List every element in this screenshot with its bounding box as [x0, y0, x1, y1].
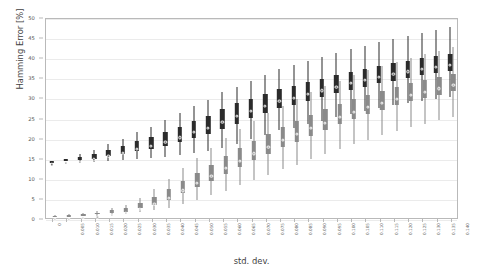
x-tick-label: 0.020 — [123, 223, 128, 235]
box-iqr — [394, 87, 398, 105]
box-iqr — [252, 141, 256, 160]
y-axis-ticks: 05101520253035404550 — [0, 18, 41, 219]
boxplot — [122, 17, 130, 218]
x-tick-mark — [195, 219, 196, 222]
x-tick-label: 0.095 — [337, 223, 342, 235]
box-iqr — [195, 173, 199, 187]
boxplot — [421, 17, 429, 218]
x-tick-mark — [437, 219, 438, 222]
box-iqr — [437, 77, 441, 95]
figure: Hamming Error [%] 05101520253035404550 0… — [0, 0, 480, 276]
boxplot — [407, 17, 415, 218]
x-tick-label: 0.030 — [152, 223, 157, 235]
box-iqr — [280, 127, 284, 147]
x-tick-label: 0.025 — [137, 223, 142, 235]
x-tick-label: 0.060 — [237, 223, 242, 235]
boxplot — [279, 17, 287, 218]
y-tick-mark — [39, 118, 43, 119]
x-tick-label: 0.070 — [266, 223, 271, 235]
x-tick-mark — [237, 219, 238, 222]
y-tick-label: 25 — [28, 116, 35, 122]
box-iqr — [451, 74, 455, 92]
boxplot — [222, 17, 230, 218]
median-marker — [139, 208, 142, 211]
box-iqr — [423, 80, 427, 98]
y-tick-mark — [39, 138, 43, 139]
boxplot — [65, 17, 73, 218]
box-iqr — [81, 214, 85, 216]
y-tick-label: 35 — [28, 75, 35, 81]
boxplot — [336, 17, 344, 218]
x-tick-label: 0.120 — [408, 223, 413, 235]
box-iqr — [337, 104, 341, 124]
box-iqr — [238, 148, 242, 166]
y-tick-label: 10 — [28, 176, 35, 182]
x-tick-mark — [266, 219, 267, 222]
box-iqr — [352, 99, 356, 119]
x-tick-mark — [209, 219, 210, 222]
y-tick-label: 30 — [28, 95, 35, 101]
x-tick-mark — [123, 219, 124, 222]
y-tick-mark — [39, 78, 43, 79]
x-tick-mark — [351, 219, 352, 222]
x-tick-mark — [365, 219, 366, 222]
y-tick-mark — [39, 58, 43, 59]
boxplot — [108, 17, 116, 218]
x-axis-title: std. dev. — [45, 256, 458, 266]
box-iqr — [309, 115, 313, 136]
x-tick-mark — [138, 219, 139, 222]
box-iqr — [409, 83, 413, 101]
median-marker — [153, 203, 156, 206]
y-tick-label: 15 — [28, 156, 35, 162]
x-tick-label: 0.050 — [209, 223, 214, 235]
boxplot — [435, 17, 443, 218]
box-iqr — [380, 91, 384, 110]
x-tick-label: 0.130 — [436, 223, 441, 235]
y-tick-label: 20 — [28, 136, 35, 142]
x-tick-label: 0.100 — [351, 223, 356, 235]
x-tick-mark — [223, 219, 224, 222]
plot-area — [45, 18, 458, 219]
y-tick-mark — [39, 98, 43, 99]
y-tick-label: 50 — [28, 15, 35, 21]
boxplot — [136, 17, 144, 218]
x-tick-mark — [380, 219, 381, 222]
x-tick-label: 0.040 — [180, 223, 185, 235]
boxplot — [150, 17, 158, 218]
median-marker — [110, 213, 113, 216]
boxplot — [449, 17, 457, 218]
y-tick-mark — [39, 18, 43, 19]
x-tick-mark — [337, 219, 338, 222]
box-iqr — [366, 95, 370, 114]
boxplot — [179, 17, 187, 218]
x-tick-mark — [166, 219, 167, 222]
boxplot — [51, 17, 59, 218]
x-tick-label: 0.135 — [451, 223, 456, 235]
box-iqr — [209, 165, 213, 181]
x-tick-label: 0.105 — [365, 223, 370, 235]
x-tick-mark — [152, 219, 153, 222]
y-tick-mark — [39, 38, 43, 39]
x-tick-mark — [180, 219, 181, 222]
box-iqr — [323, 109, 327, 130]
x-tick-label: 0.005 — [80, 223, 85, 235]
box-iqr — [223, 156, 227, 174]
x-tick-mark — [109, 219, 110, 222]
x-tick-label: 0.090 — [322, 223, 327, 235]
y-tick-label: 40 — [28, 55, 35, 61]
y-tick-mark — [39, 158, 43, 159]
x-tick-mark — [280, 219, 281, 222]
boxplot — [93, 17, 101, 218]
box-iqr — [266, 134, 270, 154]
boxplot — [293, 17, 301, 218]
boxplot — [350, 17, 358, 218]
x-axis-ticks: 00.0050.0100.0150.0200.0250.0300.0350.04… — [45, 221, 458, 251]
boxplot — [165, 17, 173, 218]
x-tick-mark — [408, 219, 409, 222]
boxplot — [393, 17, 401, 218]
boxplot — [321, 17, 329, 218]
x-tick-label: 0.045 — [194, 223, 199, 235]
x-tick-label: 0.075 — [280, 223, 285, 235]
x-tick-label: 0 — [57, 223, 62, 226]
x-tick-mark — [66, 219, 67, 222]
